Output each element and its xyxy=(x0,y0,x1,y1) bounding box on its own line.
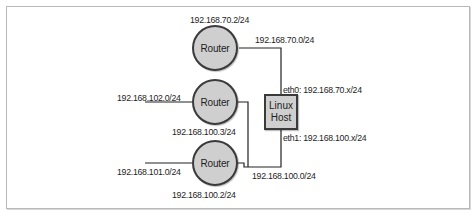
host-line2: Host xyxy=(271,112,292,124)
wire-router1-host xyxy=(239,48,281,94)
router-1: Router xyxy=(192,25,238,71)
eth1-label: eth1: 192.168.100.x/24 xyxy=(283,132,366,143)
wire-router2-bus xyxy=(238,102,248,167)
router-3: Router xyxy=(192,140,238,186)
router2-address-label: 192.168.100.3/24 xyxy=(172,126,236,137)
host-line1: Linux xyxy=(269,100,293,112)
router-2-label: Router xyxy=(201,97,230,108)
router-3-label: Router xyxy=(201,158,230,169)
wire-router3-host xyxy=(238,130,281,167)
linux-host: Linux Host xyxy=(264,94,298,130)
router3-address-label: 192.168.100.2/24 xyxy=(172,189,236,200)
router1-address-label: 192.168.70.2/24 xyxy=(190,14,249,25)
network-lower-label: 192.168.100.0/24 xyxy=(252,170,316,181)
network-upper-label: 192.168.70.0/24 xyxy=(255,34,314,45)
network-101-label: 192.168.101.0/24 xyxy=(117,166,181,177)
router-2: Router xyxy=(192,79,238,125)
network-102-label: 192.168.102.0/24 xyxy=(117,92,181,103)
router-1-label: Router xyxy=(201,43,230,54)
